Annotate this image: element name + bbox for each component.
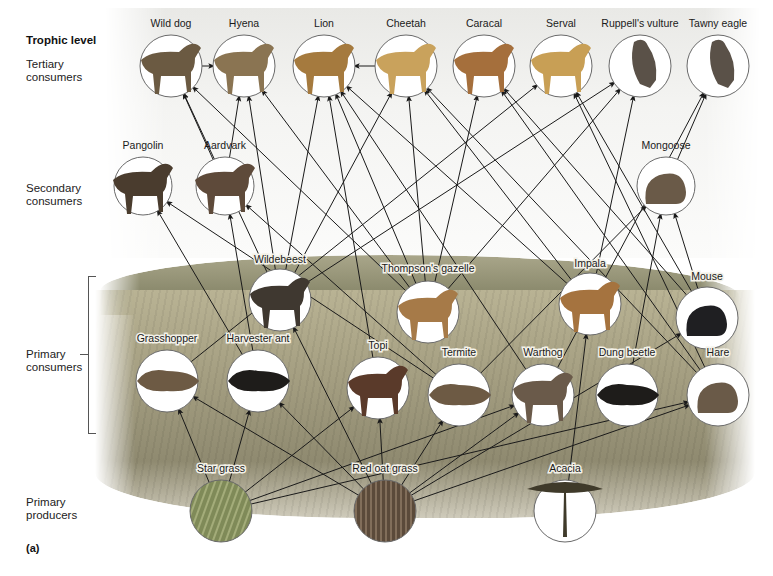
node-serval: Serval xyxy=(530,17,592,97)
node-label: Tawny eagle xyxy=(689,17,748,29)
node-label: Lion xyxy=(314,17,334,29)
edge-red-oat-grass-to-termite xyxy=(400,420,443,488)
node-label: Termite xyxy=(442,346,477,358)
node-label: Hyena xyxy=(229,17,260,29)
node-acacia: Acacia xyxy=(527,462,603,542)
node-termite: Termite xyxy=(428,346,491,426)
node-label: Harvester ant xyxy=(226,332,289,344)
node-red-oat-grass: Red oat grass xyxy=(352,462,417,542)
node-topi: Topi xyxy=(347,339,409,419)
node-label: Dung beetle xyxy=(599,346,656,358)
node-dung-beetle: Dung beetle xyxy=(596,346,659,426)
edge-dung-beetle-to-mongoose xyxy=(632,213,661,368)
node-mongoose: Mongoose xyxy=(637,139,695,215)
node-label: Star grass xyxy=(197,462,245,474)
node-label: Caracal xyxy=(466,17,502,29)
node-label: Acacia xyxy=(549,462,581,474)
node-label: Impala xyxy=(574,257,606,269)
node-hare: Hare xyxy=(687,346,749,426)
edge-gazelle-to-cheetah xyxy=(409,95,426,284)
node-hyena: Hyena xyxy=(213,17,275,97)
node-circle xyxy=(190,480,252,542)
edge-grasshopper-to-serval xyxy=(189,84,538,363)
node-label: Mongoose xyxy=(641,139,690,151)
node-pangolin: Pangolin xyxy=(113,139,173,215)
node-warthog: Warthog xyxy=(512,346,574,426)
node-grasshopper: Grasshopper xyxy=(136,332,199,412)
nodes-layer: Wild dogHyenaLionCheetahCaracalServalRup… xyxy=(113,17,749,542)
node-label: Grasshopper xyxy=(137,332,198,344)
node-label: Red oat grass xyxy=(352,462,417,474)
node-label: Serval xyxy=(546,17,576,29)
node-label: Aardvark xyxy=(204,139,247,151)
node-label: Wild dog xyxy=(151,17,192,29)
node-vulture: Ruppell's vulture xyxy=(601,17,678,97)
node-caracal: Caracal xyxy=(453,17,515,97)
node-star-grass: Star grass xyxy=(190,462,252,542)
node-label: Hare xyxy=(707,346,730,358)
food-web-figure: Trophic level Tertiary consumers Seconda… xyxy=(0,0,773,576)
node-wild-dog: Wild dog xyxy=(140,17,202,97)
node-wildebeest: Wildebeest xyxy=(249,253,311,331)
node-label: Thompson's gazelle xyxy=(381,262,474,274)
node-label: Topi xyxy=(368,339,387,351)
node-label: Cheetah xyxy=(386,17,426,29)
edge-wildebeest-to-vulture xyxy=(303,82,615,285)
node-label: Wildebeest xyxy=(254,253,306,265)
edge-wildebeest-to-cheetah xyxy=(293,92,392,276)
node-aardvark: Aardvark xyxy=(195,139,255,215)
node-circle xyxy=(354,480,416,542)
edge-impala-to-cheetah xyxy=(424,89,573,282)
node-label: Ruppell's vulture xyxy=(601,17,678,29)
node-lion: Lion xyxy=(293,17,355,97)
edge-star-grass-to-topi xyxy=(243,406,355,494)
node-eagle: Tawny eagle xyxy=(687,17,749,97)
node-label: Warthog xyxy=(523,346,562,358)
food-web-diagram: Wild dogHyenaLionCheetahCaracalServalRup… xyxy=(0,0,773,576)
node-cheetah: Cheetah xyxy=(375,17,437,97)
node-mouse: Mouse xyxy=(676,270,738,349)
edge-gazelle-to-caracal xyxy=(434,95,477,285)
edge-mongoose-to-eagle xyxy=(676,93,706,162)
edge-topi-to-lion xyxy=(329,95,374,361)
node-label: Pangolin xyxy=(123,139,164,151)
node-label: Mouse xyxy=(691,270,723,282)
edge-wildebeest-to-lion xyxy=(285,95,318,273)
node-impala: Impala xyxy=(559,257,621,335)
